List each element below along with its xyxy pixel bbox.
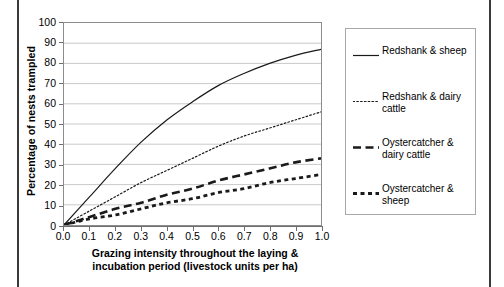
x-tick-mark-0.0 <box>63 227 64 231</box>
x-tick-mark-0.1 <box>89 227 90 231</box>
x-tick-mark-0.7 <box>244 227 245 231</box>
chart-legend: Redshank & sheepRedshank & dairy cattleO… <box>345 28 476 215</box>
legend-item-oystercatcher-sheep[interactable]: Oystercatcher & sheep <box>353 183 473 206</box>
x-tick-mark-0.5 <box>193 227 194 231</box>
legend-label: Redshank & sheep <box>382 45 467 57</box>
x-axis-title: Grazing intensity throughout the laying … <box>50 247 340 273</box>
y-tick-label-30: 30 <box>14 159 56 170</box>
data-curves <box>64 23 321 225</box>
y-tick-label-60: 60 <box>14 98 56 109</box>
y-tick-label-80: 80 <box>14 57 56 68</box>
x-tick-label-1.0: 1.0 <box>302 231 342 242</box>
legend-label: Redshank & dairy cattle <box>382 91 473 114</box>
y-tick-label-70: 70 <box>14 78 56 89</box>
legend-swatch-dotted-icon <box>353 93 379 104</box>
legend-item-redshank-sheep[interactable]: Redshank & sheep <box>353 45 473 58</box>
legend-label: Oystercatcher & dairy cattle <box>382 137 473 160</box>
y-tick-label-20: 20 <box>14 180 56 191</box>
y-tick-label-100: 100 <box>14 17 56 28</box>
x-tick-mark-0.9 <box>296 227 297 231</box>
legend-item-oystercatcher-dairy-cattle[interactable]: Oystercatcher & dairy cattle <box>353 137 473 160</box>
y-tick-label-90: 90 <box>14 37 56 48</box>
y-tick-label-10: 10 <box>14 200 56 211</box>
x-tick-mark-1.0 <box>322 227 323 231</box>
y-tick-label-50: 50 <box>14 119 56 130</box>
y-tick-label-0: 0 <box>14 221 56 232</box>
legend-swatch-short-dash-icon <box>353 185 379 196</box>
curve-oystercatcher-dairy-cattle <box>64 158 321 225</box>
legend-swatch-solid-icon <box>353 47 379 58</box>
x-tick-mark-0.6 <box>218 227 219 231</box>
x-tick-mark-0.8 <box>270 227 271 231</box>
chart-figure: Percentage of nests trampled Grazing int… <box>0 0 504 287</box>
x-tick-mark-0.2 <box>115 227 116 231</box>
curve-redshank-dairy-cattle <box>64 112 321 225</box>
plot-area <box>63 22 322 226</box>
x-tick-mark-0.3 <box>141 227 142 231</box>
legend-label: Oystercatcher & sheep <box>382 183 473 206</box>
legend-item-redshank-dairy-cattle[interactable]: Redshank & dairy cattle <box>353 91 473 114</box>
legend-swatch-long-dash-icon <box>353 139 379 150</box>
x-axis-title-line-2: incubation period (livestock units per h… <box>92 260 297 272</box>
y-tick-label-40: 40 <box>14 139 56 150</box>
x-axis-title-line-1: Grazing intensity throughout the laying … <box>92 247 299 259</box>
x-tick-mark-0.4 <box>167 227 168 231</box>
